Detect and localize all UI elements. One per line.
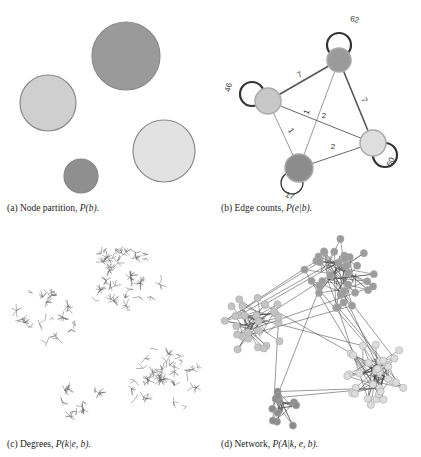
caption-d: (d) Network, P(A|k, e, b). bbox=[221, 439, 318, 449]
degree-cluster-2 bbox=[129, 348, 202, 410]
edge-count-label: 7 bbox=[359, 96, 369, 104]
block-node-left bbox=[255, 88, 281, 114]
edge-left-right bbox=[268, 101, 373, 143]
self-loop-count-label: 46 bbox=[223, 81, 234, 92]
network-diagram bbox=[210, 225, 421, 435]
edge-count-diagram: 77121262466017 bbox=[0, 0, 421, 205]
degree-cluster-1 bbox=[11, 289, 75, 346]
panel-c-degrees: (c) Degrees, P(k|e, b). bbox=[0, 225, 210, 457]
panel-b-edge-counts: 77121262466017 (b) Edge counts, P(e|b). bbox=[0, 0, 421, 220]
degree-stars-diagram bbox=[0, 225, 210, 435]
edge-count-label: 7 bbox=[296, 70, 305, 80]
degree-cluster-3 bbox=[61, 382, 106, 419]
self-loop-count-label: 62 bbox=[349, 14, 360, 25]
block-node-bottom bbox=[285, 154, 313, 182]
self-loop-count-label: 17 bbox=[284, 190, 296, 202]
block-node-right bbox=[360, 130, 386, 156]
block-node-top bbox=[327, 48, 351, 72]
panel-d-network: (d) Network, P(A|k, e, b). bbox=[210, 225, 421, 457]
caption-c: (c) Degrees, P(k|e, b). bbox=[7, 439, 91, 449]
edge-count-label: 2 bbox=[331, 142, 336, 151]
caption-b: (b) Edge counts, P(e|b). bbox=[221, 203, 312, 213]
degree-cluster-0 bbox=[92, 246, 166, 311]
edge-count-label: 2 bbox=[322, 111, 327, 120]
edge-count-label: 1 bbox=[286, 126, 296, 135]
